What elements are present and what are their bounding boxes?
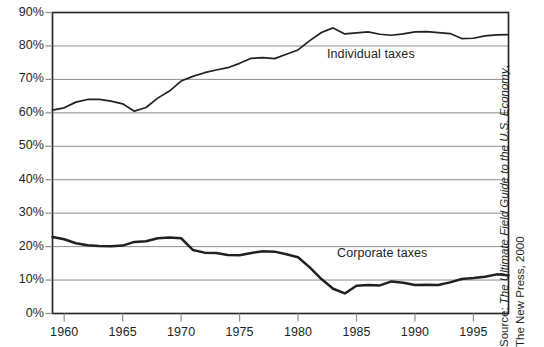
y-axis-label-0: 0% [0, 306, 44, 320]
plot-frame [53, 13, 509, 314]
source-suffix: , [498, 65, 510, 68]
source-title: The Ultimate Field Guide to the U.S. Eco… [498, 68, 510, 304]
line-chart-canvas [0, 0, 544, 347]
y-axis-label-30: 30% [0, 205, 44, 219]
x-axis-label-1975: 1975 [210, 325, 270, 339]
y-axis-label-80: 80% [0, 38, 44, 52]
x-axis-label-1990: 1990 [385, 325, 445, 339]
x-axis-label-1970: 1970 [151, 325, 211, 339]
y-axis-label-60: 60% [0, 105, 44, 119]
y-axis-label-50: 50% [0, 138, 44, 152]
y-axis-label-90: 90% [0, 5, 44, 19]
source-note: Source: The Ultimate Field Guide to the … [497, 0, 543, 347]
series-label-individual-taxes: Individual taxes [327, 47, 415, 61]
x-axis-label-1995: 1995 [443, 325, 503, 339]
x-axis-label-1985: 1985 [327, 325, 387, 339]
y-axis-label-10: 10% [0, 272, 44, 286]
source-prefix: Source: [498, 304, 510, 347]
series-label-corporate-taxes: Corporate taxes [337, 246, 427, 260]
series-line-corporate-taxes [53, 237, 509, 294]
x-axis-label-1980: 1980 [268, 325, 328, 339]
x-axis-label-1960: 1960 [34, 325, 94, 339]
x-axis-label-1965: 1965 [93, 325, 153, 339]
y-axis-label-40: 40% [0, 172, 44, 186]
plot-border [53, 13, 509, 314]
series-line-individual-taxes [53, 28, 509, 111]
chart-container: 90%80%70%60%50%40%30%20%10%0% 1960196519… [0, 0, 544, 347]
source-publisher: The New Press, 2000 [514, 236, 526, 347]
y-axis-label-20: 20% [0, 239, 44, 253]
series-lines-group [53, 28, 509, 294]
y-axis-label-70: 70% [0, 71, 44, 85]
